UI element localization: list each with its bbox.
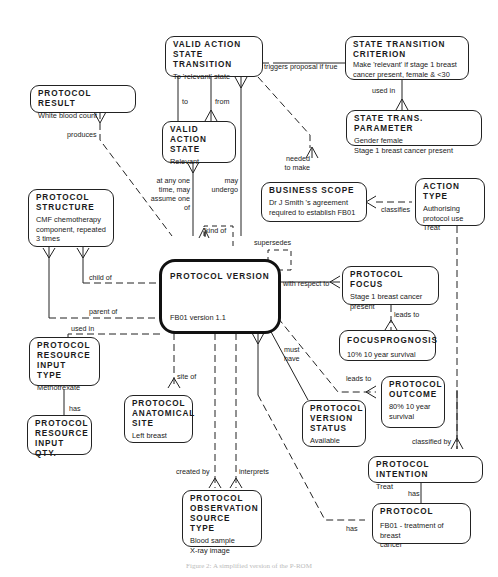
- entity-description: FB01 version 1.1: [170, 313, 226, 323]
- label-triggers-proposal: triggers proposal if true: [264, 62, 338, 71]
- entity-name: PROTOCOL OUTCOME: [389, 380, 439, 400]
- entity-protocol-structure: PROTOCOL STRUCTURE CMF chemotherapy comp…: [28, 189, 114, 247]
- entity-protocol-result: PROTOCOL RESULT White blood count: [30, 85, 136, 113]
- entity-description: FB01 - treatment of breast cancer: [380, 521, 465, 550]
- entity-description: 80% 10 year survival: [389, 402, 439, 421]
- entity-name: STATE TRANSITION CRITERION: [353, 40, 463, 60]
- label-classifies: classifies: [381, 205, 410, 214]
- entity-name: PROTOCOL VERSION STATUS: [310, 404, 360, 434]
- figure-caption: Figure 2: A simplified version of the P-…: [0, 562, 498, 570]
- entity-description: Left breast: [132, 431, 187, 441]
- entity-name: PROTOCOL RESULT: [38, 89, 130, 109]
- entity-protocol-version: PROTOCOL VERSION FB01 version 1.1: [159, 259, 281, 334]
- entity-valid-action-state-transition: VALID ACTION STATE TRANSITION To 'releva…: [165, 36, 263, 77]
- entity-name: PROTOCOL FOCUS: [350, 270, 433, 290]
- entity-name: FOCUSPROGNOSIS: [347, 336, 430, 346]
- entity-business-scope: BUSINESS SCOPE Dr J Smith 's agreement r…: [261, 182, 367, 222]
- entity-description: Treat: [376, 482, 477, 492]
- entity-name: STATE TRANS. PARAMETER: [354, 114, 476, 134]
- entity-name: ACTION TYPE: [423, 182, 479, 202]
- label-to: to: [182, 97, 188, 106]
- label-classified-by: classified by: [412, 437, 451, 446]
- entity-name: PROTOCOL OBSERVATION SOURCE TYPE: [190, 494, 256, 534]
- entity-description: Relevant: [170, 157, 230, 167]
- label-may-undergo: may undergo: [208, 176, 238, 194]
- entity-action-type: ACTION TYPE Authorising protocol use Tre…: [415, 178, 485, 226]
- label-has-qty: has: [69, 404, 81, 413]
- label-must-have: must have: [284, 345, 300, 363]
- label-at-any-one-time: at any one time, may assume one of: [144, 176, 190, 212]
- entity-name: PROTOCOL INTENTION: [376, 460, 477, 480]
- entity-name: VALID ACTION STATE: [170, 125, 230, 155]
- entity-state-trans-parameter: STATE TRANS. PARAMETER Gender female Sta…: [346, 110, 482, 146]
- label-used-in-criterion: used in: [372, 86, 395, 95]
- label-leads-to-outcome: leads to: [346, 374, 371, 383]
- entity-description: Available: [310, 436, 360, 446]
- entity-name: PROTOCOL: [380, 507, 465, 517]
- entity-valid-action-state: VALID ACTION STATE Relevant: [162, 121, 236, 163]
- entity-protocol-resource-input-type: PROTOCOL RESOURCE INPUT TYPE Methotrexat…: [29, 337, 100, 386]
- entity-relationship-diagram: VALID ACTION STATE TRANSITION To 'releva…: [0, 0, 498, 577]
- entity-name: VALID ACTION STATE TRANSITION: [173, 40, 257, 70]
- entity-protocol-version-status: PROTOCOL VERSION STATUS Available: [302, 400, 366, 447]
- label-parent-of: parent of: [89, 307, 117, 316]
- label-produces: produces: [67, 130, 97, 139]
- entity-description: CMF chemotherapy component, repeated 3 t…: [36, 215, 108, 244]
- entity-description: Authorising protocol use Treat: [423, 204, 479, 233]
- label-site-of: site of: [177, 372, 196, 381]
- entity-description: Gender female Stage 1 breast cancer pres…: [354, 136, 476, 155]
- entity-protocol-anatomical-site: PROTOCOL ANATOMICAL SITE Left breast: [124, 395, 193, 443]
- label-has-protocol: has: [346, 524, 358, 533]
- entity-protocol-focus: PROTOCOL FOCUS Stage 1 breast cancer pre…: [342, 266, 439, 305]
- entity-description: White blood count: [38, 111, 130, 121]
- label-from: from: [215, 97, 229, 106]
- entity-description: Stage 1 breast cancer present: [350, 292, 433, 311]
- label-needed-to-make: needed to make: [282, 154, 310, 172]
- entity-description: Methotrexate: [37, 383, 94, 393]
- entity-protocol: PROTOCOL FB01 - treatment of breast canc…: [372, 503, 471, 544]
- entity-name: PROTOCOL RESOURCE INPUT QTY.: [35, 419, 86, 459]
- entity-protocol-outcome: PROTOCOL OUTCOME 80% 10 year survival: [381, 376, 445, 428]
- entity-state-transition-criterion: STATE TRANSITION CRITERION Make 'relevan…: [345, 36, 469, 80]
- label-has-intention: has: [408, 489, 420, 498]
- entity-focus-prognosis: FOCUSPROGNOSIS 10% 10 year survival: [339, 330, 436, 361]
- entity-description: To 'relevant' state: [173, 72, 257, 82]
- entity-protocol-intention: PROTOCOL INTENTION Treat: [368, 456, 483, 483]
- label-child-of: child of: [89, 273, 112, 282]
- label-used-in-resource: used in: [71, 324, 94, 333]
- entity-description: Blood sample X-ray image: [190, 536, 256, 555]
- entity-description: 10% 10 year survival: [347, 350, 430, 360]
- entity-description: Dr J Smith 's agreement required to esta…: [269, 198, 361, 217]
- entity-name: PROTOCOL RESOURCE INPUT TYPE: [37, 341, 94, 381]
- label-with-respect-to: with respect to: [283, 279, 329, 288]
- entity-name: PROTOCOL ANATOMICAL SITE: [132, 399, 187, 429]
- entity-name: PROTOCOL STRUCTURE: [36, 193, 108, 213]
- label-created-by: created by: [176, 467, 210, 476]
- entity-name: BUSINESS SCOPE: [269, 186, 361, 196]
- label-supersedes: supersedes: [254, 238, 291, 247]
- entity-protocol-resource-input-qty: PROTOCOL RESOURCE INPUT QTY.: [27, 415, 92, 455]
- entity-name: PROTOCOL VERSION: [170, 272, 270, 282]
- entity-protocol-observation-source-type: PROTOCOL OBSERVATION SOURCE TYPE Blood s…: [182, 490, 262, 547]
- entity-description: Make 'relevant' if stage 1 breast cancer…: [353, 60, 463, 79]
- label-interprets: interprets: [239, 467, 269, 476]
- label-kind-of: kind of: [205, 226, 226, 235]
- label-leads-to-prognosis: leads to: [394, 310, 419, 319]
